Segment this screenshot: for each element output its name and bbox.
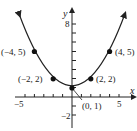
x-axis-label: x (129, 85, 135, 96)
label-neg2-2: (−2, 2) (18, 74, 43, 84)
point-4-5 (107, 49, 112, 54)
y-ticks (72, 24, 76, 115)
label-2-2: (2, 2) (96, 74, 116, 84)
label-neg4-5: (−4, 5) (1, 47, 26, 57)
x-tick-label-neg5: −5 (14, 99, 24, 109)
y-tick-label-neg2: −2 (61, 111, 71, 121)
parabola-chart: y x 8 −2 −5 5 (−4, 5) (−2, 2) (0, 1) (2,… (0, 0, 137, 131)
label-4-5: (4, 5) (115, 47, 135, 57)
point-0-1 (69, 85, 74, 90)
point-2-2 (88, 76, 93, 81)
y-tick-label-8: 8 (65, 19, 70, 29)
point-neg4-5 (32, 49, 37, 54)
y-axis-label: y (62, 8, 68, 19)
label-0-1: (0, 1) (82, 101, 102, 111)
point-neg2-2 (51, 76, 56, 81)
x-tick-label-5: 5 (117, 99, 122, 109)
